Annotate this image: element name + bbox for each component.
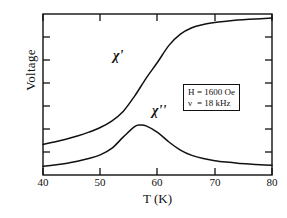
curve-label-chi-double-prime: χ'' bbox=[152, 103, 166, 119]
annotation-value-frequency: 18 kHz bbox=[204, 98, 230, 108]
annotation-value-field: 1600 Oe bbox=[204, 87, 235, 97]
x-tick-label-60: 60 bbox=[142, 176, 172, 188]
annotation-conditions-box: H= 1600 Oe ν= 18 kHz bbox=[183, 84, 240, 111]
x-axis-label: T (K) bbox=[43, 191, 272, 207]
annotation-line-field: H= 1600 Oe bbox=[188, 87, 235, 98]
curve-label-chi-prime: χ' bbox=[113, 48, 123, 64]
curve-chi-double-prime bbox=[43, 125, 272, 166]
x-tick-label-50: 50 bbox=[85, 176, 115, 188]
annotation-symbol-nu: ν bbox=[188, 98, 197, 109]
y-axis-label: Voltage bbox=[23, 30, 39, 110]
x-tick-label-80: 80 bbox=[257, 176, 287, 188]
annotation-line-frequency: ν= 18 kHz bbox=[188, 98, 235, 109]
figure-container: Voltage T (K) 40 50 60 70 80 χ' χ'' H= 1… bbox=[0, 0, 287, 218]
x-tick-label-40: 40 bbox=[28, 176, 58, 188]
curve-chi-prime bbox=[43, 18, 272, 144]
x-tick-label-70: 70 bbox=[200, 176, 230, 188]
annotation-symbol-H: H bbox=[188, 87, 197, 98]
annotation-equals-2: = bbox=[197, 98, 202, 108]
annotation-equals-1: = bbox=[197, 87, 202, 97]
